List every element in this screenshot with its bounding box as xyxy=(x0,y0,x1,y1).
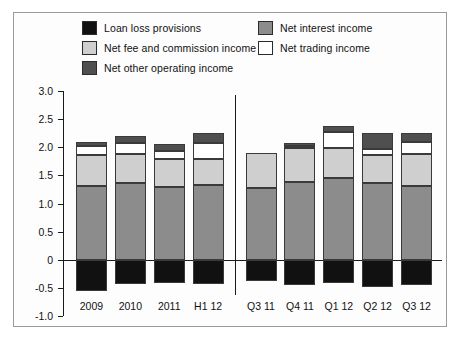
x-tick-label: Q1 12 xyxy=(324,300,353,312)
bar-segment xyxy=(115,183,146,260)
bar-segment-negative xyxy=(323,260,354,284)
bar-segment xyxy=(362,133,393,149)
bar-segment xyxy=(401,142,432,154)
y-tick-label: 2.0 xyxy=(38,141,53,153)
y-tick-mark xyxy=(58,232,63,233)
bar-segment xyxy=(76,186,107,260)
bar-segment-negative xyxy=(246,260,277,281)
bar-segment xyxy=(76,155,107,186)
x-tick-label: Q4 11 xyxy=(286,300,314,312)
bar-segment-negative xyxy=(362,260,393,287)
bar-segment xyxy=(154,187,185,260)
bar-segment xyxy=(362,155,393,183)
x-tick-label: 2009 xyxy=(80,300,103,312)
bar-segment xyxy=(362,183,393,260)
bar-segment xyxy=(154,151,185,159)
bar-segment xyxy=(284,143,315,146)
bar-segment xyxy=(193,185,224,260)
bar-segment xyxy=(323,132,354,148)
x-tick-label: 2010 xyxy=(119,300,142,312)
y-tick-label: 2.5 xyxy=(38,113,53,125)
bar-segment xyxy=(401,186,432,260)
x-tick-label: Q2 12 xyxy=(363,300,392,312)
bar-segment xyxy=(154,159,185,187)
x-tick-label: 2011 xyxy=(158,300,181,312)
bar-segment xyxy=(193,143,224,159)
bar-segment xyxy=(76,142,107,147)
bar-segment-negative xyxy=(76,260,107,291)
bar-segment xyxy=(154,144,185,150)
plot-area: 3.02.52.01.51.00.50-0.5-1.0200920102011H… xyxy=(14,13,446,326)
y-tick-label: 3.0 xyxy=(38,85,53,97)
y-tick-label: -0.5 xyxy=(35,282,53,294)
bar-segment-negative xyxy=(115,260,146,284)
y-tick-mark xyxy=(58,147,63,148)
bar-segment-negative xyxy=(284,260,315,285)
bar-segment xyxy=(284,146,315,148)
y-tick-mark xyxy=(58,175,63,176)
x-tick-label: H1 12 xyxy=(194,300,222,312)
bar-segment xyxy=(76,146,107,154)
bar-segment xyxy=(362,149,393,155)
bar-segment xyxy=(323,126,354,132)
y-tick-mark xyxy=(58,288,63,289)
bar-segment xyxy=(401,154,432,186)
y-tick-mark xyxy=(58,204,63,205)
bar-segment xyxy=(284,148,315,182)
y-tick-label: 0 xyxy=(47,254,53,266)
bar-segment xyxy=(115,143,146,154)
y-tick-mark xyxy=(58,119,63,120)
bar-segment xyxy=(284,182,315,260)
bar-segment xyxy=(401,133,432,142)
bar-segment xyxy=(323,178,354,260)
bar-segment xyxy=(193,133,224,143)
bar-segment xyxy=(323,148,354,177)
bar-segment-negative xyxy=(193,260,224,284)
bar-segment xyxy=(115,136,146,143)
y-tick-label: -1.0 xyxy=(35,310,53,322)
bar-segment-negative xyxy=(154,260,185,284)
y-tick-mark xyxy=(58,316,63,317)
y-tick-label: 0.5 xyxy=(38,226,53,238)
chart-figure: Loan loss provisions Net interest income… xyxy=(13,12,447,327)
bar-segment-negative xyxy=(401,260,432,285)
panel-divider xyxy=(235,95,236,295)
y-tick-label: 1.5 xyxy=(38,169,53,181)
bar-segment xyxy=(246,188,277,260)
y-tick-label: 1.0 xyxy=(38,198,53,210)
x-tick-label: Q3 12 xyxy=(402,300,431,312)
bar-segment xyxy=(193,159,224,185)
y-axis xyxy=(63,91,64,316)
y-tick-mark xyxy=(58,260,63,261)
bar-segment xyxy=(115,154,146,183)
x-tick-label: Q3 11 xyxy=(247,300,275,312)
bar-segment xyxy=(246,153,277,188)
y-tick-mark xyxy=(58,91,63,92)
